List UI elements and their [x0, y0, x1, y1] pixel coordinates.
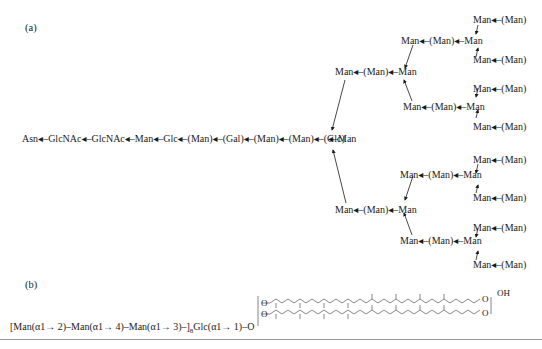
bottom-divider	[0, 339, 542, 340]
terminal-6: Man◂–(Man)	[473, 192, 526, 204]
glc-right-man: ◂–Man	[328, 133, 356, 145]
hydroxyl-label: OH	[497, 287, 510, 299]
main-chain: Asn◂–GlcNAc◂–GlcNAc◂–Man◂–Glc◂–(Man)◂–(G…	[22, 133, 345, 145]
upper-branch: Man◂–(Man)◂–Man	[335, 66, 417, 78]
lipid-o-lower: O	[261, 308, 268, 320]
terminal-5: Man◂–(Man)	[473, 154, 526, 166]
panel-b-label: (b)	[25, 279, 37, 290]
terminal-3: Man◂–(Man)	[473, 83, 526, 95]
dolichol-formula: [Man(α1→ 2)–Man(α1→ 4)–Man(α1→ 3)–]8Glc(…	[10, 321, 254, 337]
upper-lower-branch: Man◂–(Man)◂–Man	[403, 101, 485, 113]
terminal-2: Man◂–(Man)	[473, 54, 526, 66]
polyprenol-chain	[258, 294, 491, 326]
lower-branch: Man◂–(Man)◂–Man	[335, 204, 417, 216]
terminal-7: Man◂–(Man)	[473, 222, 526, 234]
lower-lower-branch: Man◂–(Man)◂–Man	[400, 235, 482, 247]
upper-upper-branch: Man◂–(Man)◂–Man	[401, 35, 483, 47]
formula-suffix: Glc(α1→ 1)–O	[193, 321, 254, 332]
lipid-o-right-lower: O	[482, 307, 489, 319]
terminal-8: Man◂–(Man)	[473, 259, 526, 271]
formula-prefix: [Man(α1→ 2)–Man(α1→ 4)–Man(α1→ 3)–]	[10, 321, 190, 332]
terminal-1: Man◂–(Man)	[473, 14, 526, 26]
lipid-o-right-upper: O	[482, 293, 489, 305]
lower-upper-branch: Man◂–(Man)◂–Man	[400, 169, 482, 181]
terminal-4: Man◂–(Man)	[473, 121, 526, 133]
